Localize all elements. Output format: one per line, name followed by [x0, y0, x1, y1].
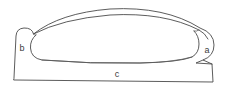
region-label-b: b [19, 43, 24, 53]
region-label-c: c [115, 69, 120, 79]
diagram-canvas: b a c [0, 0, 230, 93]
diagram-figure: b a c [0, 0, 230, 93]
region-label-a: a [204, 45, 209, 55]
